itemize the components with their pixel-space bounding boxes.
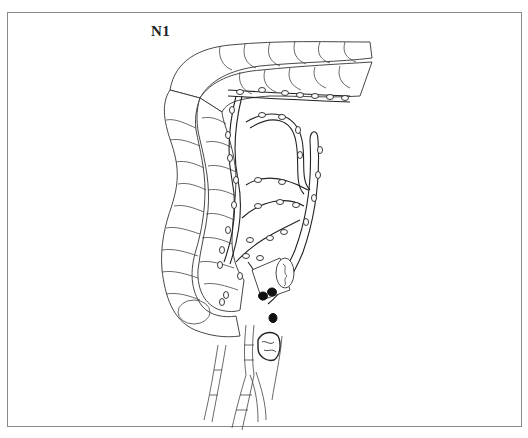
ascending-colon xyxy=(162,90,244,337)
involved-lymph-nodes xyxy=(259,288,278,323)
colon-illustration xyxy=(0,0,528,438)
iliac-vessels xyxy=(204,325,266,430)
